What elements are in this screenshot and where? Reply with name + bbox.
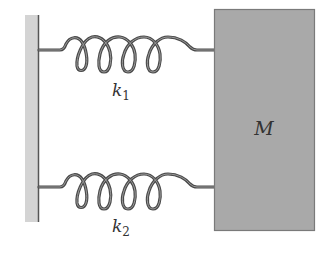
- spring-k2: [39, 174, 214, 209]
- spring-k2-label: k2: [112, 216, 130, 239]
- spring-k1: [39, 37, 214, 72]
- wall: [25, 15, 38, 222]
- spring-k1-label: k1: [112, 80, 130, 103]
- spring-mass-diagram: k1 k2 M: [0, 0, 333, 254]
- mass-label: M: [253, 117, 274, 139]
